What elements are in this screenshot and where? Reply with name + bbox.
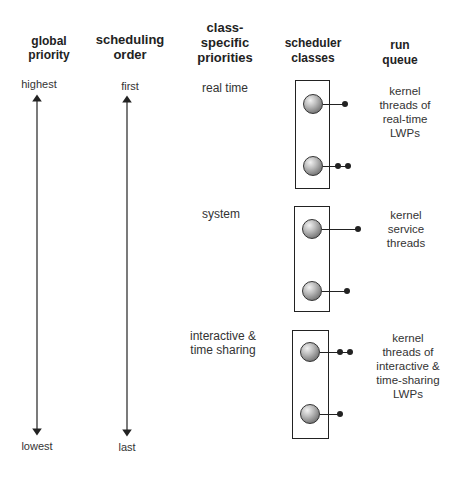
run-queue-system: kernel service threads <box>376 208 436 250</box>
run-queue-line: threads of <box>366 345 450 359</box>
thread-dot <box>342 101 348 107</box>
priority-level-ball <box>300 342 320 362</box>
thread-dot <box>335 163 341 169</box>
run-queue-line: threads <box>376 236 436 250</box>
class-label-line: system <box>190 208 252 221</box>
thread-dot <box>347 349 353 355</box>
run-queue-line: service <box>376 222 436 236</box>
run-queue-line: kernel <box>372 84 438 98</box>
run-queue-line: LWPs <box>366 387 450 401</box>
queue-link <box>320 352 350 353</box>
run-queue-line: kernel <box>376 208 436 222</box>
run-queue-line: threads of <box>372 98 438 112</box>
thread-dot <box>355 226 361 232</box>
priority-level-ball <box>303 94 323 114</box>
class-label-line: time sharing <box>184 343 262 357</box>
queue-link <box>322 229 359 230</box>
thread-dot <box>344 288 350 294</box>
run-queue-line: kernel <box>366 331 450 345</box>
run-queue-line: LWPs <box>372 126 438 140</box>
class-label-line: interactive & <box>184 329 262 343</box>
class-label-line: real time <box>190 82 260 95</box>
priority-level-ball <box>302 281 322 301</box>
run-queue-line: time-sharing <box>366 373 450 387</box>
run-queue-interactive-time-sharing: kernel threads of interactive & time-sha… <box>366 331 450 401</box>
priority-level-ball <box>300 404 320 424</box>
priority-level-ball <box>302 219 322 239</box>
thread-dot <box>345 163 351 169</box>
thread-dot <box>337 349 343 355</box>
thread-dot <box>337 411 343 417</box>
class-label-system: system <box>190 208 252 221</box>
priority-level-ball <box>303 156 323 176</box>
run-queue-line: real-time <box>372 112 438 126</box>
run-queue-line: interactive & <box>366 359 450 373</box>
run-queue-real-time: kernel threads of real-time LWPs <box>372 84 438 140</box>
class-label-real-time: real time <box>190 82 260 95</box>
class-label-interactive-time-sharing: interactive & time sharing <box>184 329 262 357</box>
